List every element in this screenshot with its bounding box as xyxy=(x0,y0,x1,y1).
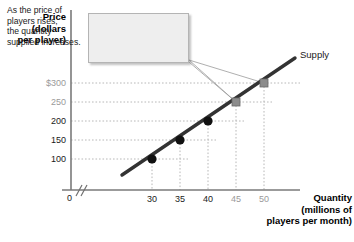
x-tick-label-40: 40 xyxy=(193,194,223,204)
callout-leader-lines xyxy=(189,60,264,102)
gridlines-vertical xyxy=(152,83,264,190)
x-tick-label-45: 45 xyxy=(221,194,251,204)
supply-curve-figure: Price (dollars per player) Quantity (mil… xyxy=(0,0,354,242)
y-tick-label-250: 250 xyxy=(32,97,66,107)
annotation-callout-text: As the price of players rises, the quant… xyxy=(7,5,99,47)
data-point-solid-group xyxy=(147,116,212,163)
x-tick-label-50: 50 xyxy=(249,194,279,204)
origin-label: 0 xyxy=(52,193,72,203)
gridlines-horizontal xyxy=(71,83,300,159)
y-tick-label-300: $300 xyxy=(32,78,66,88)
x-tick-label-30: 30 xyxy=(137,194,167,204)
y-tick-label-100: 100 xyxy=(32,154,66,164)
annotation-callout-box xyxy=(88,13,189,63)
supply-series-label: Supply xyxy=(300,49,329,60)
y-tick-label-200: 200 xyxy=(32,116,66,126)
x-tick-label-35: 35 xyxy=(165,194,195,204)
y-tick-label-150: 150 xyxy=(32,135,66,145)
